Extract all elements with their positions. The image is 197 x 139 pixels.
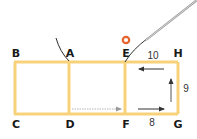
point-label-f: F bbox=[122, 119, 130, 130]
needle-icon bbox=[125, 0, 197, 62]
ring-marker-icon bbox=[123, 37, 129, 43]
measurement-right: 9 bbox=[183, 84, 189, 94]
point-label-a: A bbox=[66, 48, 75, 59]
point-label-b: B bbox=[12, 48, 20, 59]
point-label-g: G bbox=[173, 119, 182, 130]
point-label-d: D bbox=[65, 119, 74, 130]
point-label-h: H bbox=[173, 48, 182, 59]
measurement-top: 10 bbox=[147, 51, 158, 61]
point-label-c: C bbox=[12, 119, 20, 130]
stitch-lines bbox=[14, 62, 178, 114]
stitch-diagram bbox=[0, 0, 197, 139]
measurement-bottom: 8 bbox=[149, 118, 155, 128]
point-label-e: E bbox=[122, 48, 130, 59]
